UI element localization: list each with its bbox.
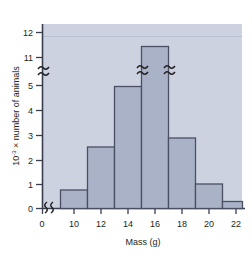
y-axis: 12 11 5 4 3 2 1 0 [23, 24, 43, 214]
bar-17-19 [169, 138, 196, 209]
y-tick-label-12: 12 [23, 28, 33, 38]
y-tick-label-2: 2 [28, 156, 33, 166]
y-tick-label-3: 3 [28, 131, 33, 141]
y-axis-break-icon [38, 67, 49, 76]
x-tick-label-20: 20 [204, 219, 214, 229]
x-axis-break-icon [45, 202, 54, 213]
bars-group [61, 47, 243, 209]
svg-text:10-3 × number of animals: 10-3 × number of animals [11, 66, 21, 166]
y-tick-label-4: 4 [28, 106, 33, 116]
bar-9-11 [61, 190, 88, 209]
y-tick-label-5: 5 [28, 81, 33, 91]
y-axis-title-rest: × number of animals [11, 66, 21, 151]
bar-11-13 [88, 147, 115, 209]
x-tick-label-12: 12 [96, 219, 106, 229]
y-tick-label-11: 11 [24, 53, 33, 63]
y-tick-label-0: 0 [28, 204, 33, 214]
x-tick-label-16: 16 [150, 219, 160, 229]
x-tick-label-18: 18 [177, 219, 187, 229]
x-tick-label-22: 22 [231, 219, 241, 229]
y-tick-label-1: 1 [28, 180, 33, 190]
y-axis-title-base: 10 [11, 156, 21, 166]
x-tick-label-14: 14 [123, 219, 133, 229]
bar-21-23 [223, 202, 243, 209]
bar-13-15 [115, 87, 142, 209]
x-tick-label-0: 0 [39, 219, 44, 229]
x-axis: 0 10 12 14 16 18 20 22 [39, 209, 245, 230]
bar-15-17 [142, 47, 169, 209]
histogram-figure: 12 11 5 4 3 2 1 0 0 10 12 [0, 0, 252, 257]
bar-19-21 [196, 184, 223, 209]
chart-svg: 12 11 5 4 3 2 1 0 0 10 12 [0, 0, 252, 257]
x-tick-label-10: 10 [69, 219, 79, 229]
y-axis-title: 10-3 × number of animals [11, 66, 21, 166]
x-axis-title: Mass (g) [125, 237, 160, 247]
